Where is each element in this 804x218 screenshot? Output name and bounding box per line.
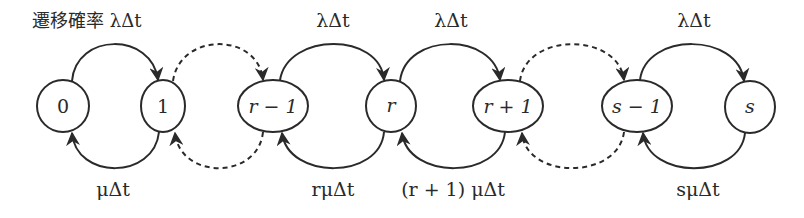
state-label-r-minus-1: r − 1 — [248, 95, 297, 117]
state-label-r-plus-1: r + 1 — [483, 95, 532, 117]
edge-r-plus-1-to-s-minus-1 — [520, 44, 624, 81]
rate-label-r-to-r-plus-1: λΔt — [434, 9, 468, 31]
rate-label-s-minus-1-to-s: λΔt — [677, 9, 711, 31]
state-node-0: 0 — [37, 80, 89, 132]
edge-r-to-r-minus-1 — [282, 132, 384, 168]
birth-death-state-diagram: 遷移確率 λΔt λΔt λΔt λΔt μΔt rμΔt (r + 1) μΔ… — [0, 0, 804, 218]
rate-label-1-to-0: μΔt — [96, 178, 130, 200]
state-node-1: 1 — [141, 80, 185, 132]
rate-label-r-to-r-minus-1: rμΔt — [312, 178, 355, 200]
state-label-s-minus-1: s − 1 — [612, 95, 662, 117]
state-label-0: 0 — [57, 95, 69, 117]
state-node-r-plus-1: r + 1 — [473, 80, 543, 132]
state-node-r-minus-1: r − 1 — [238, 80, 308, 132]
edge-0-to-1 — [72, 44, 158, 81]
edge-s-to-s-minus-1 — [643, 133, 745, 168]
state-node-r: r — [366, 80, 416, 132]
edge-s-minus-1-to-s — [640, 44, 744, 81]
edge-s-minus-1-to-r-plus-1 — [522, 132, 624, 168]
state-label-1: 1 — [157, 95, 169, 117]
edge-1-to-r-minus-1 — [173, 44, 263, 81]
rate-label-r-plus-1-to-r: (r + 1) μΔt — [401, 178, 505, 200]
edge-r-to-r-plus-1 — [400, 44, 500, 81]
state-label-s: s — [745, 95, 755, 117]
transition-probability-caption: 遷移確率 λΔt — [32, 10, 142, 31]
edge-r-minus-1-to-1 — [175, 132, 263, 168]
edge-r-minus-1-to-r — [280, 44, 384, 80]
rate-label-s-to-s-minus-1: sμΔt — [676, 178, 720, 200]
state-node-s: s — [725, 81, 775, 133]
rate-label-r-minus-1-to-r: λΔt — [316, 9, 350, 31]
edge-r-plus-1-to-r — [402, 132, 505, 168]
edge-1-to-0 — [72, 132, 159, 168]
state-node-s-minus-1: s − 1 — [602, 80, 672, 132]
